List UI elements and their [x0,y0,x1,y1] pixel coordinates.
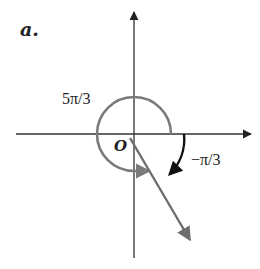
positive-angle-label: 5π/3 [62,90,91,108]
negative-arc [170,134,184,174]
angle-diagram [0,0,260,269]
negative-angle-label: −π/3 [191,151,221,169]
terminal-ray [130,138,190,240]
origin-label: O [114,137,127,155]
part-label: a. [20,18,39,40]
